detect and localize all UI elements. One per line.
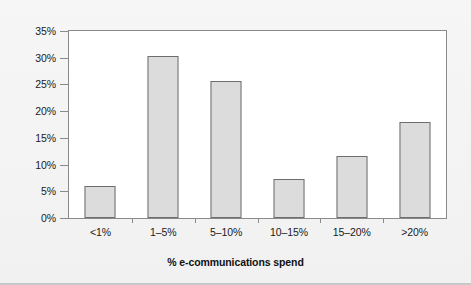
x-axis-title: % e-communications spend <box>0 256 471 268</box>
y-axis-tick-label: 0% <box>0 213 56 224</box>
y-axis-tick-label: 25% <box>0 79 56 90</box>
bar-slot <box>258 31 321 218</box>
bar[interactable] <box>399 122 430 218</box>
y-axis-tick-label: 30% <box>0 52 56 63</box>
bar-series <box>69 31 446 218</box>
x-axis-tick-mark <box>383 219 384 223</box>
x-axis-tick-mark <box>132 219 133 223</box>
y-axis-tick-mark <box>60 31 68 32</box>
bar-slot <box>320 31 383 218</box>
y-axis-tick-mark <box>60 138 68 139</box>
y-axis-tick-mark <box>60 58 68 59</box>
x-axis-tick-mark <box>320 219 321 223</box>
bar[interactable] <box>336 156 367 219</box>
y-axis-tick-mark <box>60 84 68 85</box>
bar[interactable] <box>148 56 179 218</box>
y-axis-tick-mark <box>60 165 68 166</box>
x-axis-tick-label: 5–10% <box>195 226 258 239</box>
bar[interactable] <box>211 81 242 218</box>
bar-slot <box>132 31 195 218</box>
y-axis-tick-label: 20% <box>0 106 56 117</box>
y-axis-tick-label: 5% <box>0 186 56 197</box>
x-axis-tick-label: 10–15% <box>258 226 321 239</box>
y-axis-tick-mark <box>60 111 68 112</box>
x-axis-tick-mark <box>195 219 196 223</box>
x-axis-tick-label: >20% <box>383 226 446 239</box>
bar[interactable] <box>273 179 304 218</box>
y-axis-tick-label: 10% <box>0 159 56 170</box>
bar-slot <box>383 31 446 218</box>
y-axis-tick-label: 15% <box>0 132 56 143</box>
y-axis: 0%5%10%15%20%25%30%35% <box>0 0 56 285</box>
x-axis-tick-label: 15–20% <box>320 226 383 239</box>
bar[interactable] <box>85 186 116 218</box>
chart-figure: 0%5%10%15%20%25%30%35% <1%1–5%5–10%10–15… <box>0 0 471 285</box>
x-axis-tick-mark <box>258 219 259 223</box>
x-axis: <1%1–5%5–10%10–15%15–20%>20% <box>69 226 446 244</box>
x-axis-tick-label: 1–5% <box>132 226 195 239</box>
bar-slot <box>69 31 132 218</box>
bar-slot <box>195 31 258 218</box>
y-axis-tick-mark <box>60 218 68 219</box>
x-axis-tick-label: <1% <box>69 226 132 239</box>
y-axis-tick-mark <box>60 191 68 192</box>
y-axis-tick-label: 35% <box>0 26 56 37</box>
